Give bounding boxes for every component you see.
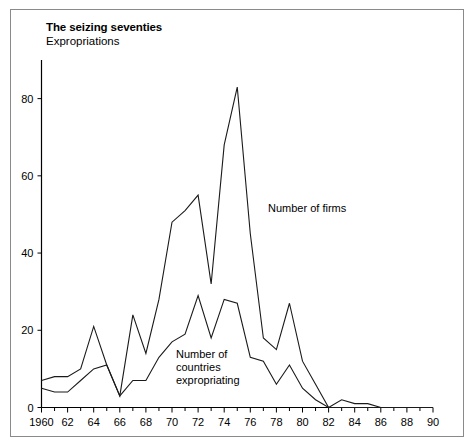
x-tick-label: 70 [166, 416, 178, 428]
x-tick-label: 72 [192, 416, 204, 428]
y-tick-label: 20 [21, 324, 33, 336]
x-tick-label: 68 [140, 416, 152, 428]
x-tick-label: 80 [296, 416, 308, 428]
y-tick-label: 60 [21, 170, 33, 182]
series-label-countries: Number of countries expropriating [176, 348, 240, 387]
y-tick-label: 0 [27, 402, 33, 414]
series-label-firms: Number of firms [268, 202, 346, 214]
x-tick-label: 1960 [29, 416, 53, 428]
y-tick-label: 40 [21, 247, 33, 259]
x-tick-label: 84 [349, 416, 361, 428]
x-tick-label: 66 [114, 416, 126, 428]
x-tick-label: 78 [270, 416, 282, 428]
x-tick-label: 76 [244, 416, 256, 428]
x-tick-label: 74 [218, 416, 230, 428]
x-tick-label: 88 [401, 416, 413, 428]
x-tick-label: 64 [88, 416, 100, 428]
x-tick-label: 62 [61, 416, 73, 428]
y-axis-tick-labels: 020406080 [21, 93, 33, 414]
x-tick-label: 82 [322, 416, 334, 428]
x-tick-label: 86 [375, 416, 387, 428]
series-label-countries-line2: countries [176, 361, 240, 374]
x-axis-tick-labels: 1960626466687072747678808284868890 [29, 416, 439, 428]
x-tick-label: 90 [427, 416, 439, 428]
series-label-countries-line1: Number of [176, 348, 240, 361]
y-tick-label: 80 [21, 93, 33, 105]
chart-page: The seizing seventies Expropriations 020… [0, 0, 474, 447]
series-label-countries-line3: expropriating [176, 374, 240, 387]
